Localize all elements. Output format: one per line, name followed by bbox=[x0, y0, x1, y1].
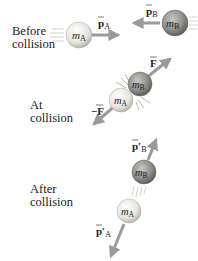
label-pA: pA bbox=[98, 17, 110, 31]
label-pB-prime: p′B bbox=[132, 140, 147, 154]
arrow-pB-prime bbox=[148, 140, 156, 160]
after-stage: p′B mB mA p′A bbox=[96, 140, 156, 256]
motion-lines-a bbox=[50, 29, 64, 41]
label-negF: −F bbox=[91, 105, 104, 117]
at-stage: mA mB F −F bbox=[91, 57, 170, 124]
label-pB: pB bbox=[146, 5, 157, 19]
motion-lines-after bbox=[132, 186, 146, 197]
before-stage: mA pA pB mB bbox=[50, 5, 198, 48]
label-F: F bbox=[150, 57, 157, 69]
arrow-pA-prime bbox=[111, 224, 124, 256]
motion-lines-b bbox=[189, 17, 198, 29]
label-pA-prime: p′A bbox=[96, 225, 111, 239]
collision-diagram: mA pA pB mB mA mB F −F p′B bbox=[0, 0, 198, 261]
